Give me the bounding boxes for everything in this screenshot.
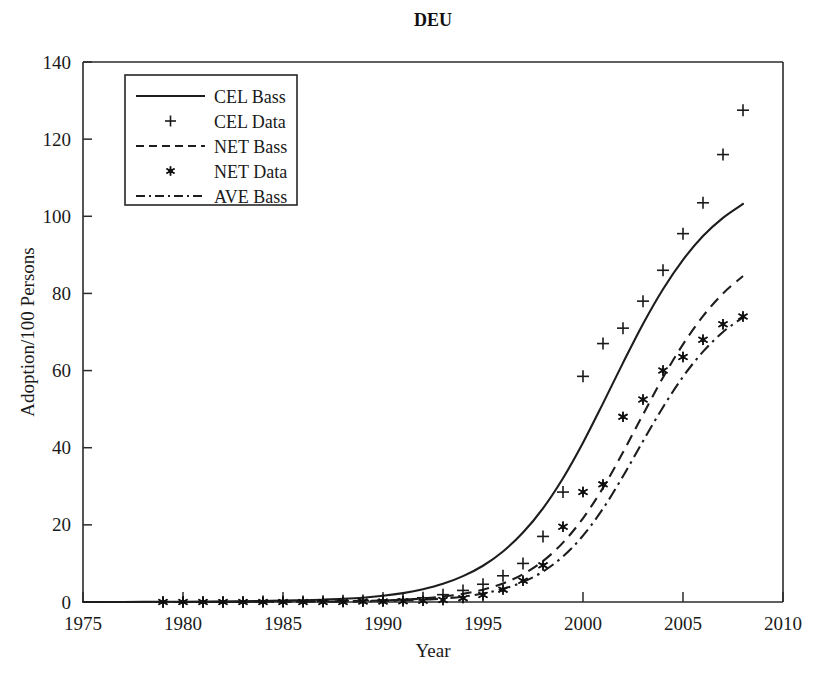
chart-title: DEU: [414, 10, 452, 30]
data-point-star: [719, 319, 728, 329]
legend-item-label: AVE Bass: [214, 187, 287, 207]
data-point-star: [579, 487, 588, 497]
data-point-plus: [597, 338, 609, 350]
x-tick-label: 1985: [264, 613, 302, 634]
legend-item-label: NET Data: [214, 162, 287, 182]
star-icon: [321, 600, 324, 603]
x-tick-label: 1995: [464, 613, 502, 634]
legend-item-label: CEL Bass: [214, 87, 286, 107]
x-tick-label: 1990: [364, 613, 402, 634]
y-axis-title: Adoption/100 Persons: [17, 247, 38, 416]
star-icon: [741, 315, 744, 318]
chart-legend[interactable]: CEL BassCEL DataNET BassNET DataAVE Bass: [125, 75, 297, 207]
y-tick-label: 20: [52, 514, 71, 535]
y-tick-label: 120: [43, 129, 72, 150]
data-point-plus: [697, 197, 709, 209]
x-tick-label: 2000: [564, 613, 602, 634]
star-icon: [301, 600, 304, 603]
y-tick-label: 0: [62, 592, 72, 613]
y-tick-label: 60: [52, 360, 71, 381]
star-icon: [481, 593, 484, 596]
x-tick-label: 2005: [664, 613, 702, 634]
data-point-plus: [577, 370, 589, 382]
data-point-star: [639, 394, 648, 404]
data-point-plus: [657, 264, 669, 276]
star-icon: [501, 588, 504, 591]
series-path-net-bass: [83, 276, 743, 602]
star-icon: [261, 600, 264, 603]
star-icon: [421, 599, 424, 602]
x-tick-label: 1975: [64, 613, 102, 634]
legend-item-label: CEL Data: [214, 112, 286, 132]
star-icon: [181, 600, 184, 603]
star-icon: [601, 483, 604, 486]
y-tick-label: 80: [52, 283, 71, 304]
star-icon: [581, 490, 584, 493]
chart-figure: DEU 020406080100120140 19751980198519901…: [0, 0, 840, 691]
star-icon: [201, 600, 204, 603]
star-icon: [381, 600, 384, 603]
x-tick-label: 1980: [164, 613, 202, 634]
star-icon: [221, 600, 224, 603]
x-tick-label: 2010: [764, 613, 802, 634]
star-icon: [241, 600, 244, 603]
data-point-plus: [537, 530, 549, 542]
y-tick-label: 100: [43, 206, 72, 227]
star-icon: [521, 579, 524, 582]
data-point-plus: [617, 322, 629, 334]
y-tick-label: 40: [52, 437, 71, 458]
star-icon: [361, 600, 364, 603]
data-point-plus: [677, 228, 689, 240]
series-path-cel-bass: [83, 204, 743, 602]
data-point-plus: [737, 104, 749, 116]
star-icon: [341, 600, 344, 603]
y-tick-label: 140: [43, 52, 72, 73]
data-point-plus: [497, 570, 509, 582]
star-icon: [441, 598, 444, 601]
star-icon: [661, 369, 664, 372]
chart-canvas: DEU 020406080100120140 19751980198519901…: [0, 0, 840, 691]
star-icon: [621, 415, 624, 418]
data-point-star: [699, 335, 708, 345]
star-icon: [721, 323, 724, 326]
star-icon: [401, 600, 404, 603]
data-point-plus: [717, 149, 729, 161]
star-icon: [561, 525, 564, 528]
legend-item-label: NET Bass: [214, 137, 287, 157]
x-axis-title: Year: [415, 640, 451, 661]
y-axis-ticks: 020406080100120140: [43, 52, 93, 613]
data-point-star: [559, 522, 568, 532]
series-path-ave-bass: [83, 317, 743, 602]
star-icon: [281, 600, 284, 603]
data-point-star: [659, 365, 668, 375]
data-point-plus: [557, 486, 569, 498]
star-icon: [169, 169, 172, 172]
data-point-star: [679, 352, 688, 362]
data-point-plus: [637, 295, 649, 307]
star-icon: [161, 600, 164, 603]
star-icon: [461, 597, 464, 600]
data-point-plus: [517, 557, 529, 569]
star-icon: [641, 398, 644, 401]
star-icon: [701, 338, 704, 341]
star-icon: [541, 564, 544, 567]
star-icon: [681, 355, 684, 358]
data-point-star: [619, 412, 628, 422]
series-layer: [83, 204, 743, 602]
